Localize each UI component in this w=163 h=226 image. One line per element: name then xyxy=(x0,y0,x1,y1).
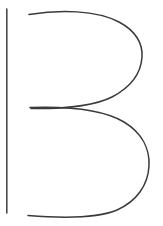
drawing-canvas xyxy=(0,0,163,226)
letter-b-artwork xyxy=(0,0,163,226)
canvas-background xyxy=(0,0,163,226)
